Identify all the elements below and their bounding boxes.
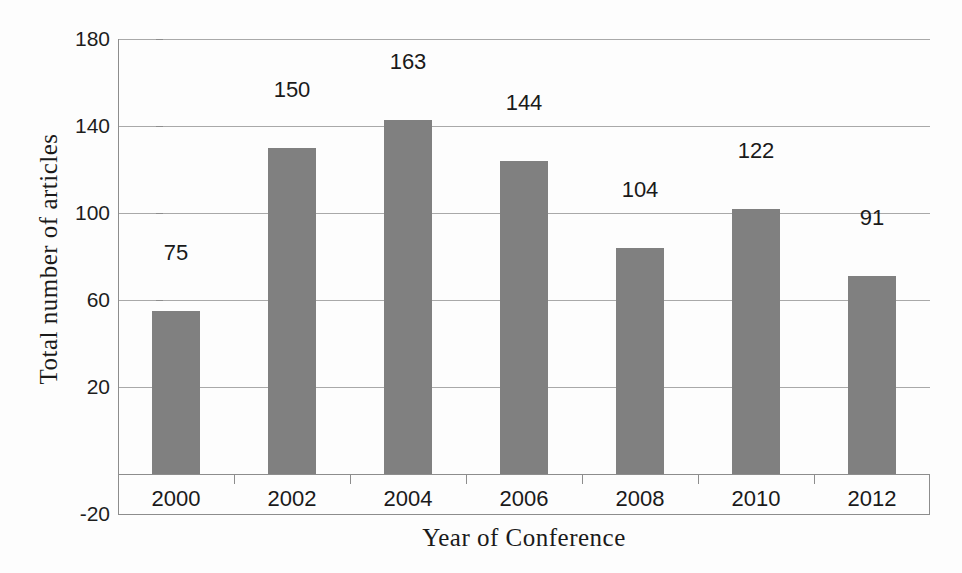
bar-value-2010: 122 [738,138,775,164]
x-tick-mark-0 [118,474,119,484]
y-axis-title: Total number of articles [35,94,63,424]
bar-value-2012: 91 [860,205,884,231]
y-tick-mark-minus20 [156,514,163,515]
x-tick-label-2000: 2000 [152,486,201,512]
x-tick-label-2004: 2004 [384,486,433,512]
x-tick-mark-1 [234,474,235,484]
gridline-minus20-bottom-frame [118,514,930,515]
x-axis-title: Year of Conference [118,524,930,552]
y-tick-label-180: 180 [52,27,110,51]
bar-2012[interactable] [848,276,896,474]
x-tick-label-2012: 2012 [848,486,897,512]
y-tick-label-minus20: -20 [52,502,110,526]
x-tick-mark-3 [466,474,467,484]
x-tick-mark-2 [350,474,351,484]
x-tick-mark-4 [582,474,583,484]
bar-2000[interactable] [152,311,200,474]
bar-value-2000: 75 [164,240,188,266]
x-tick-mark-5 [698,474,699,484]
bar-2010[interactable] [732,209,780,474]
bar-value-2006: 144 [506,90,543,116]
x-tick-label-2006: 2006 [500,486,549,512]
bar-value-2008: 104 [622,177,659,203]
x-tick-mark-6 [814,474,815,484]
chart-figure: 180 140 100 60 20 -20 75 150 163 144 104… [0,0,962,573]
bar-2004[interactable] [384,120,432,474]
bar-value-2002: 150 [274,77,311,103]
x-axis-band: 2000 2002 2004 2006 2008 2010 2012 [118,474,930,514]
x-tick-label-2010: 2010 [732,486,781,512]
bar-2006[interactable] [500,161,548,474]
x-tick-label-2008: 2008 [616,486,665,512]
bar-value-2004: 163 [390,49,427,75]
bar-2002[interactable] [268,148,316,474]
x-tick-mark-7 [929,474,930,484]
x-tick-label-2002: 2002 [268,486,317,512]
bar-2008[interactable] [616,248,664,474]
